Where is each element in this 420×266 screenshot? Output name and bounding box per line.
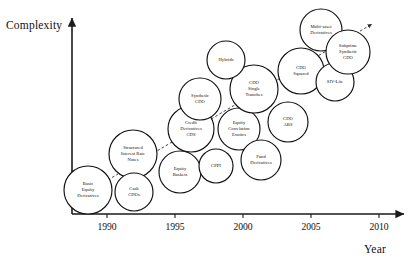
- x-tick-label: 2010: [369, 221, 388, 232]
- bubble-group: [64, 9, 370, 214]
- bubble-circle: [109, 130, 157, 178]
- x-axis-title: Year: [364, 243, 386, 255]
- complexity-vs-year-bubble-chart: Complexity Year 19901995200020052010 Bas…: [0, 0, 420, 266]
- chart-canvas: [0, 0, 420, 266]
- x-tick-label: 2005: [301, 221, 320, 232]
- bubble-circle: [326, 30, 370, 74]
- bubble-circle: [268, 102, 308, 142]
- bubble-circle: [179, 78, 221, 120]
- bubble-circle: [199, 149, 233, 183]
- bubble-circle: [241, 140, 281, 180]
- bubble-circle: [115, 173, 153, 211]
- x-tick-label: 2000: [233, 221, 252, 232]
- y-axis-title: Complexity: [6, 19, 62, 31]
- bubble-circle: [159, 151, 201, 193]
- bubble-circle: [207, 41, 245, 79]
- x-tick-label: 1990: [97, 221, 116, 232]
- bubble-circle: [64, 166, 112, 214]
- x-tick-label: 1995: [165, 221, 184, 232]
